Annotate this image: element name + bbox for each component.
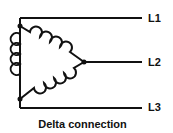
node-dot-right (82, 60, 87, 65)
label-l3: L3 (148, 102, 161, 113)
label-l2: L2 (148, 57, 161, 68)
coil-top (20, 26, 84, 62)
node-dot-bottom (18, 97, 23, 102)
coil-bottom (20, 62, 84, 99)
label-l1: L1 (148, 13, 161, 24)
diagram-caption: Delta connection (0, 119, 165, 130)
node-dot-top (18, 24, 23, 29)
coil-left (11, 26, 20, 99)
